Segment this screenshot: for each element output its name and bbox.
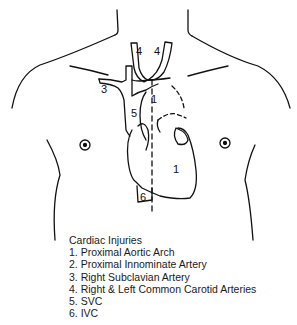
label-1-arch: 1 [151,93,157,105]
aortic-arch-dashed [172,86,184,108]
label-6: 6 [140,191,146,203]
legend-item: 6. IVC [69,307,256,319]
right-torso-side [245,145,255,240]
label-3: 3 [101,83,107,95]
left-torso-side [47,140,60,240]
legend-item: 5. SVC [69,295,256,307]
label-4-right: 4 [136,45,142,57]
neck-left-outline [115,10,118,35]
label-1-heart: 1 [173,163,179,175]
legend-item: 1. Proximal Aortic Arch [69,246,256,258]
right-shoulder-outline [192,36,290,108]
legend-title: Cardiac Injuries [69,234,256,246]
heart-outline [128,128,197,199]
neck-right-outline [188,10,192,36]
label-5: 5 [131,107,137,119]
legend-item: 2. Proximal Innominate Artery [69,258,256,270]
legend-item: 4. Right & Left Common Carotid Arteries [69,283,256,295]
left-atrial-appendage [174,128,188,145]
label-4-left: 4 [154,45,160,57]
left-clavicle [70,66,108,75]
right-clavicle [188,66,228,76]
left-shoulder-outline [12,35,115,108]
legend: Cardiac Injuries 1. Proximal Aortic Arch… [69,234,256,319]
legend-item: 3. Right Subclavian Artery [69,271,256,283]
